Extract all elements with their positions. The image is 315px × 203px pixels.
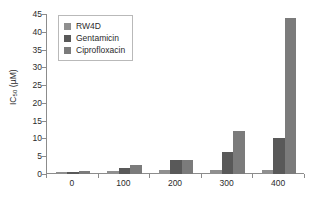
bar	[130, 165, 142, 174]
x-axis-tick-label: 100	[116, 178, 130, 188]
y-axis-tick-label: 25	[33, 80, 42, 90]
legend-swatch-icon	[64, 35, 71, 42]
legend-swatch-icon	[64, 23, 71, 30]
y-axis-tick-label: 15	[33, 116, 42, 126]
y-axis-tick-label: 20	[33, 98, 42, 108]
y-axis-tick-label: 40	[33, 27, 42, 37]
legend-swatch-icon	[64, 47, 71, 54]
legend-item: Gentamicin	[64, 32, 125, 44]
y-axis-tick-mark	[42, 67, 46, 68]
bar-chart-figure: IC50 (µM) 051015202530354045 01002003004…	[0, 0, 315, 203]
bar	[67, 172, 79, 174]
bar	[159, 170, 171, 174]
legend-item: Ciprofloxacin	[64, 44, 125, 56]
y-axis-title-subscript: 50	[12, 90, 18, 97]
legend-item: RW4D	[64, 20, 125, 32]
x-axis-tick-label: 0	[69, 178, 74, 188]
y-axis-tick-mark	[42, 121, 46, 122]
legend-item-label: RW4D	[76, 22, 101, 31]
x-axis-tick-mark	[304, 174, 305, 178]
bar	[273, 138, 285, 174]
x-axis-tick-label: 300	[220, 178, 234, 188]
y-axis-tick-labels: 051015202530354045	[20, 0, 42, 203]
y-axis-tick-mark	[42, 50, 46, 51]
x-axis-tick-labels: 0100200300400	[46, 178, 304, 194]
y-axis-tick-label: 10	[33, 133, 42, 143]
y-axis-tick-mark	[42, 138, 46, 139]
y-axis-tick-mark	[42, 32, 46, 33]
chart-legend: RW4DGentamicinCiprofloxacin	[58, 15, 133, 61]
bar	[210, 170, 222, 174]
legend-item-label: Gentamicin	[76, 34, 119, 43]
bar	[262, 170, 274, 174]
y-axis-title-base: IC	[8, 97, 18, 106]
y-axis-title-unit: (µM)	[8, 70, 18, 91]
y-axis-tick-label: 35	[33, 45, 42, 55]
bar	[119, 168, 131, 174]
y-axis-tick-mark	[42, 85, 46, 86]
x-axis-tick-label: 400	[271, 178, 285, 188]
y-axis-tick-label: 45	[33, 9, 42, 19]
y-axis-tick-mark	[42, 156, 46, 157]
y-axis-tick-mark	[42, 103, 46, 104]
legend-item-label: Ciprofloxacin	[76, 46, 125, 55]
bar	[56, 172, 68, 174]
bar	[233, 131, 245, 174]
bar	[79, 171, 91, 174]
bar	[107, 171, 119, 174]
bar	[170, 160, 182, 174]
bar	[285, 18, 297, 174]
y-axis-tick-label: 30	[33, 62, 42, 72]
y-axis-tick-mark	[42, 14, 46, 15]
bar	[182, 160, 194, 174]
bar	[222, 152, 234, 174]
x-axis-tick-label: 200	[168, 178, 182, 188]
